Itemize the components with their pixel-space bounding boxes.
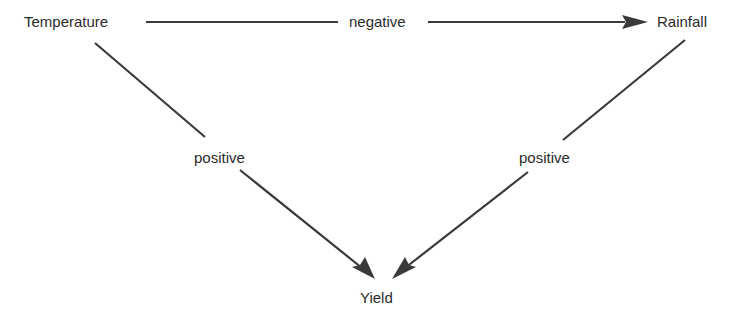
edge-temp-yield-upper [95,43,205,137]
edge-temp-yield-lower [240,170,362,268]
edge-rain-yield-lower [405,172,528,268]
edge-label-positive-left: positive [194,149,245,167]
edge-label-negative: negative [349,13,406,31]
node-temperature: Temperature [24,13,108,31]
arrowhead-yield-left [352,257,375,279]
arrowhead-rainfall [622,15,648,29]
node-yield: Yield [360,289,393,307]
edge-rain-yield-upper [563,40,685,140]
node-rainfall: Rainfall [657,13,707,31]
edges-layer [0,0,747,322]
edge-label-positive-right: positive [519,149,570,167]
arrowhead-yield-right [392,257,416,279]
